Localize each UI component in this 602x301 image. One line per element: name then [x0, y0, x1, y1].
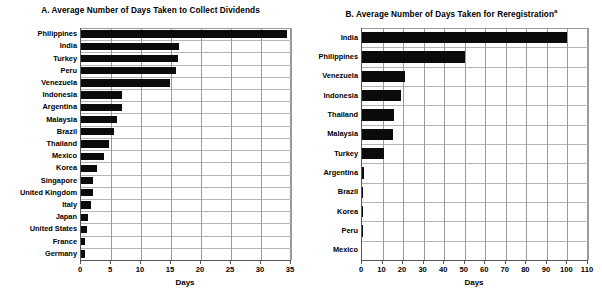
gridline-horizontal: [81, 126, 291, 127]
x-axis-title: Days: [464, 278, 483, 287]
category-label: Philippines: [38, 30, 77, 38]
gridline-horizontal: [362, 67, 588, 68]
category-label: Brazil: [57, 128, 77, 136]
gridline-horizontal: [362, 105, 588, 106]
category-label: Turkey: [334, 150, 358, 158]
bar: [362, 109, 394, 121]
gridline-vertical: [141, 28, 142, 260]
category-label: Peru: [342, 227, 358, 235]
category-label: Mexico: [333, 246, 358, 254]
category-label: Argentina: [324, 169, 359, 177]
gridline-horizontal: [81, 65, 291, 66]
gridline-vertical: [547, 28, 548, 260]
x-tick-label: 90: [542, 265, 550, 274]
bar: [81, 165, 97, 172]
x-tick-label: 100: [560, 265, 573, 274]
gridline-horizontal: [81, 101, 291, 102]
bar: [81, 67, 176, 74]
gridline-vertical: [291, 28, 292, 260]
panel-b-plot-wrapper: IndiaPhilippinesVenezuelaIndonesiaThaila…: [301, 0, 602, 301]
bar: [81, 104, 122, 111]
category-label: Mexico: [52, 152, 77, 160]
category-label: United States: [30, 225, 77, 233]
bar: [81, 43, 179, 50]
bar: [362, 129, 393, 141]
x-tick: [484, 261, 485, 264]
bar: [81, 153, 104, 160]
gridline-horizontal: [81, 138, 291, 139]
gridline-vertical: [465, 28, 466, 260]
x-tick: [464, 261, 465, 264]
x-tick-label: 35: [286, 265, 294, 274]
x-tick-label: 60: [480, 265, 488, 274]
gridline-horizontal: [81, 150, 291, 151]
gridline-vertical: [261, 28, 262, 260]
category-label: Turkey: [53, 55, 77, 63]
gridline-horizontal: [362, 47, 588, 48]
gridline-vertical: [567, 28, 568, 260]
x-tick-label: 0: [78, 265, 82, 274]
x-tick: [566, 261, 567, 264]
bar: [362, 71, 405, 83]
category-label: Indonesia: [324, 92, 359, 100]
category-label: France: [53, 238, 77, 246]
gridline-horizontal: [81, 211, 291, 212]
x-tick: [290, 261, 291, 264]
x-tick: [170, 261, 171, 264]
gridline-horizontal: [362, 183, 588, 184]
category-label: Argentina: [43, 103, 78, 111]
x-tick: [525, 261, 526, 264]
bar: [81, 250, 85, 257]
bar: [362, 167, 364, 179]
x-tick-label: 70: [501, 265, 509, 274]
category-label: Korea: [337, 208, 358, 216]
x-tick: [402, 261, 403, 264]
gridline-vertical: [444, 28, 445, 260]
category-label: Thailand: [328, 111, 358, 119]
plot-area: [80, 28, 291, 261]
category-label: Malaysia: [327, 130, 358, 138]
chart-panel-b: B. Average Number of Days Taken for Rere…: [301, 0, 602, 301]
gridline-horizontal: [81, 199, 291, 200]
bar: [81, 214, 88, 221]
gridline-horizontal: [362, 241, 588, 242]
gridline-horizontal: [81, 187, 291, 188]
gridline-horizontal: [362, 86, 588, 87]
bar: [81, 79, 170, 86]
plot-top-border: [362, 28, 588, 29]
x-tick: [361, 261, 362, 264]
x-tick: [505, 261, 506, 264]
category-label: Singapore: [41, 177, 77, 185]
category-label: Korea: [56, 164, 77, 172]
x-axis-title: Days: [175, 278, 194, 287]
x-tick: [200, 261, 201, 264]
x-tick: [230, 261, 231, 264]
gridline-vertical: [526, 28, 527, 260]
category-label: Indonesia: [43, 91, 78, 99]
panel-a-plot-wrapper: PhilippinesIndiaTurkeyPeruVenezuelaIndon…: [0, 0, 301, 301]
category-label: Malaysia: [46, 116, 77, 124]
category-label: Venezuela: [322, 72, 358, 80]
x-tick-label: 25: [226, 265, 234, 274]
x-tick-label: 30: [418, 265, 426, 274]
bar: [81, 226, 87, 233]
bar: [81, 189, 93, 196]
category-label: Brazil: [338, 188, 358, 196]
x-tick: [546, 261, 547, 264]
category-label: Thailand: [47, 140, 77, 148]
gridline-horizontal: [81, 52, 291, 53]
gridline-horizontal: [81, 162, 291, 163]
gridline-vertical: [588, 28, 589, 260]
gridline-vertical: [111, 28, 112, 260]
bar: [362, 32, 567, 44]
category-label: Japan: [56, 213, 77, 221]
category-label: Italy: [62, 201, 77, 209]
gridline-vertical: [403, 28, 404, 260]
gridline-horizontal: [81, 236, 291, 237]
chart-panel-a: A. Average Number of Days Taken to Colle…: [0, 0, 301, 301]
x-tick: [260, 261, 261, 264]
gridline-horizontal: [81, 175, 291, 176]
bar: [362, 206, 363, 218]
plot-area: [361, 28, 588, 261]
gridline-horizontal: [81, 89, 291, 90]
